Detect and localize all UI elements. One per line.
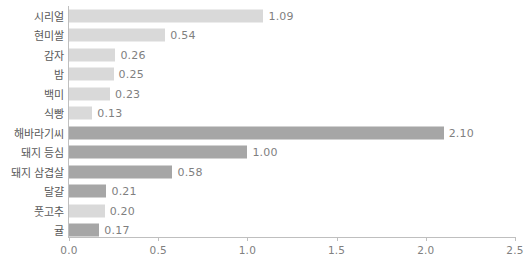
bar[interactable] — [69, 146, 247, 159]
bar-value-label: 0.17 — [104, 224, 129, 237]
bar[interactable] — [69, 185, 106, 198]
bar-row[interactable]: 돼지 삼겹살0.58 — [0, 162, 532, 182]
category-label: 돼지 등심 — [21, 144, 64, 160]
x-axis-tick-label: 0.5 — [150, 244, 167, 256]
bar-row[interactable]: 달걀0.21 — [0, 182, 532, 202]
bar[interactable] — [69, 107, 92, 120]
bar-value-label: 0.20 — [110, 204, 135, 217]
bar-row[interactable]: 밤0.25 — [0, 65, 532, 85]
category-label: 시리얼 — [34, 8, 64, 24]
bar-value-label: 2.10 — [449, 126, 474, 139]
bar-chart: 시리얼1.09현미쌀0.54감자0.26밤0.25백미0.23식빵0.13해바라… — [0, 0, 532, 268]
category-label: 해바라기씨 — [14, 125, 64, 141]
bar-value-label: 0.13 — [97, 107, 122, 120]
bar-value-label: 1.09 — [268, 9, 293, 22]
category-label: 풋고추 — [34, 203, 64, 219]
bar[interactable] — [69, 224, 99, 237]
bar[interactable] — [69, 165, 172, 178]
bar-row[interactable]: 해바라기씨2.10 — [0, 123, 532, 143]
x-axis-tick-mark — [247, 237, 248, 241]
category-label: 현미쌀 — [34, 27, 64, 43]
x-axis-line — [68, 237, 515, 238]
x-axis-tick-mark — [515, 237, 516, 241]
x-axis-tick-label: 2.5 — [506, 244, 523, 256]
plot-area: 시리얼1.09현미쌀0.54감자0.26밤0.25백미0.23식빵0.13해바라… — [68, 6, 515, 237]
x-axis-tick-label: 2.0 — [417, 244, 434, 256]
category-label: 달걀 — [44, 183, 64, 199]
bar-value-label: 0.54 — [170, 29, 195, 42]
category-label: 감자 — [44, 47, 64, 63]
bar[interactable] — [69, 87, 110, 100]
x-axis-tick-mark — [158, 237, 159, 241]
bar-value-label: 0.25 — [119, 68, 144, 81]
bar-row[interactable]: 풋고추0.20 — [0, 201, 532, 221]
bar-value-label: 0.21 — [111, 185, 136, 198]
bar[interactable] — [69, 9, 263, 22]
bar-row[interactable]: 시리얼1.09 — [0, 6, 532, 26]
x-axis-tick-label: 0.0 — [60, 244, 77, 256]
bar-value-label: 0.23 — [115, 87, 140, 100]
y-axis-line — [68, 6, 69, 237]
bar[interactable] — [69, 48, 115, 61]
bar[interactable] — [69, 126, 444, 139]
category-label: 식빵 — [44, 105, 64, 121]
bar-row[interactable]: 백미0.23 — [0, 84, 532, 104]
x-axis-tick-label: 1.0 — [239, 244, 256, 256]
category-label: 백미 — [44, 86, 64, 102]
bar-value-label: 1.00 — [252, 146, 277, 159]
bar[interactable] — [69, 68, 114, 81]
x-axis-tick-mark — [69, 237, 70, 241]
bar-value-label: 0.58 — [177, 165, 202, 178]
bar-row[interactable]: 감자0.26 — [0, 45, 532, 65]
bar[interactable] — [69, 29, 165, 42]
category-label: 귤 — [54, 222, 64, 238]
bar-row[interactable]: 식빵0.13 — [0, 104, 532, 124]
bar-value-label: 0.26 — [120, 48, 145, 61]
x-axis-tick-mark — [426, 237, 427, 241]
bar[interactable] — [69, 204, 105, 217]
category-label: 돼지 삼겹살 — [11, 164, 64, 180]
x-axis-tick-label: 1.5 — [328, 244, 345, 256]
category-label: 밤 — [54, 66, 64, 82]
x-axis-tick-mark — [337, 237, 338, 241]
bar-row[interactable]: 현미쌀0.54 — [0, 26, 532, 46]
bar-row[interactable]: 돼지 등심1.00 — [0, 143, 532, 163]
